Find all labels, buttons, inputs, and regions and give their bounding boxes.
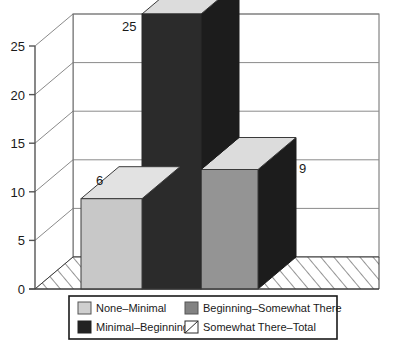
- legend-item-beginning-somewhat-there[interactable]: Beginning–Somewhat There: [185, 302, 342, 314]
- legend-label-none-minimal: None–Minimal: [96, 302, 166, 314]
- y-tick-label-20: 20: [11, 88, 25, 103]
- bar-value-label-2: 25: [122, 19, 136, 34]
- legend-item-somewhat-there-total[interactable]: Somewhat There–Total: [185, 321, 316, 333]
- legend-label-minimal-beginning: Minimal–Beginning: [96, 321, 189, 333]
- plot-left-wall: [35, 14, 73, 289]
- bar-chart-3d: 25 20 15 10 5 0 9 25: [0, 0, 419, 348]
- light-gray-swatch: [78, 302, 91, 314]
- y-tick-label-15: 15: [11, 136, 25, 151]
- dark-swatch: [78, 321, 91, 333]
- legend-label-somewhat-there-total: Somewhat There–Total: [203, 321, 316, 333]
- bar-value-label-3: 9: [299, 161, 306, 176]
- legend: None–Minimal Beginning–Somewhat There Mi…: [69, 296, 342, 339]
- y-tick-label-5: 5: [18, 233, 25, 248]
- medium-gray-swatch: [185, 302, 198, 314]
- bar-value-label-1: 6: [96, 173, 103, 188]
- bar-none-minimal[interactable]: 6: [81, 167, 180, 289]
- y-tick-label-10: 10: [11, 185, 25, 200]
- legend-item-none-minimal[interactable]: None–Minimal: [78, 302, 166, 314]
- y-tick-label-0: 0: [18, 282, 25, 297]
- legend-label-beginning-somewhat-there: Beginning–Somewhat There: [203, 302, 342, 314]
- y-tick-label-25: 25: [11, 39, 25, 54]
- chart-svg: 25 20 15 10 5 0 9 25: [0, 0, 419, 348]
